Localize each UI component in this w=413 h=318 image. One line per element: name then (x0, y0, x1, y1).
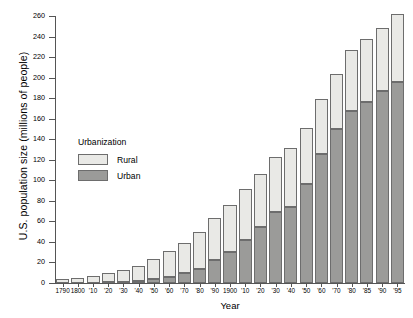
bar-segment-rural (239, 189, 252, 240)
y-tick-label: 200 (5, 74, 45, 81)
bar-segment-rural (300, 128, 313, 184)
bar-segment-rural (208, 218, 221, 260)
bar-segment-urban (193, 269, 206, 283)
bar[interactable] (178, 243, 191, 283)
bar-segment-urban (223, 252, 236, 283)
bar[interactable] (163, 251, 176, 283)
legend-swatch-rural (78, 154, 108, 165)
bar[interactable] (315, 99, 328, 283)
bar[interactable] (208, 218, 221, 283)
legend-item-rural[interactable]: Rural (78, 154, 140, 165)
bar-segment-urban (315, 154, 328, 283)
bar[interactable] (269, 157, 282, 283)
y-tick-label: 260 (5, 12, 45, 19)
bar-segment-urban (178, 273, 191, 283)
bar[interactable] (376, 28, 389, 283)
legend-item-urban[interactable]: Urban (78, 170, 140, 181)
bar-segment-rural (360, 39, 373, 103)
y-tick-label: 80 (5, 197, 45, 204)
legend-label-urban: Urban (117, 171, 140, 181)
bar-segment-rural (147, 259, 160, 279)
bar-segment-urban (147, 279, 160, 283)
bar-segment-rural (56, 279, 69, 283)
bar-segment-rural (193, 232, 206, 269)
y-tick (49, 283, 55, 284)
bar[interactable] (254, 174, 267, 283)
bar[interactable] (193, 232, 206, 283)
bar[interactable] (391, 14, 404, 283)
bar[interactable] (132, 266, 145, 283)
y-tick-label: 120 (5, 156, 45, 163)
bar-segment-rural (71, 278, 84, 283)
legend-title: Urbanization (78, 137, 140, 147)
bar-segment-rural (391, 14, 404, 82)
bar-segment-urban (208, 260, 221, 283)
bar-segment-rural (163, 251, 176, 277)
bar-segment-urban (391, 82, 404, 283)
x-axis-title: Year (55, 300, 405, 311)
bar-segment-urban (330, 129, 343, 283)
x-tick-label: '95 (382, 288, 412, 294)
y-tick-label: 140 (5, 135, 45, 142)
y-tick-label: 180 (5, 94, 45, 101)
bar-segment-urban (132, 281, 145, 283)
y-tick-label: 100 (5, 176, 45, 183)
bar-segment-rural (345, 50, 358, 111)
y-tick-label: 240 (5, 33, 45, 40)
bar-segment-urban (360, 102, 373, 283)
bar-segment-urban (376, 91, 389, 283)
bar-segment-urban (300, 184, 313, 283)
bar[interactable] (147, 259, 160, 283)
bar[interactable] (223, 205, 236, 283)
bar-segment-urban (163, 277, 176, 283)
bar-segment-rural (117, 270, 130, 282)
bar[interactable] (345, 50, 358, 283)
bar-segment-urban (269, 212, 282, 283)
bar-segment-rural (254, 174, 267, 227)
y-tick-label: 220 (5, 53, 45, 60)
bar-segment-rural (315, 99, 328, 154)
bar-segment-urban (239, 240, 252, 283)
bar-segment-rural (330, 74, 343, 129)
bar[interactable] (117, 270, 130, 283)
bar-segment-rural (87, 276, 100, 283)
y-tick-label: 0 (5, 279, 45, 286)
y-tick-label: 20 (5, 258, 45, 265)
bar-segment-urban (284, 207, 297, 283)
bar[interactable] (87, 276, 100, 283)
legend-label-rural: Rural (117, 155, 138, 165)
bar-segment-rural (132, 266, 145, 282)
bar[interactable] (71, 278, 84, 283)
bar[interactable] (330, 74, 343, 283)
bar-segment-rural (284, 148, 297, 207)
bar-segment-rural (223, 205, 236, 252)
chart-figure: U.S. population size (millions of people… (0, 0, 413, 318)
bar[interactable] (300, 128, 313, 283)
bar-segment-rural (269, 157, 282, 212)
bar-segment-rural (376, 28, 389, 91)
bar[interactable] (284, 148, 297, 283)
bar[interactable] (239, 189, 252, 283)
legend: Urbanization Rural Urban (78, 137, 140, 186)
legend-swatch-urban (78, 170, 108, 181)
bar[interactable] (102, 273, 115, 283)
y-tick-label: 40 (5, 238, 45, 245)
bar-segment-rural (178, 243, 191, 272)
y-tick-label: 60 (5, 217, 45, 224)
bar[interactable] (360, 39, 373, 283)
y-tick-label: 160 (5, 115, 45, 122)
bar-segment-rural (102, 273, 115, 282)
y-axis-title: U.S. population size (millions of people… (17, 26, 29, 266)
bar-segment-urban (345, 111, 358, 283)
bar[interactable] (56, 279, 69, 283)
bar-segment-urban (254, 227, 267, 283)
